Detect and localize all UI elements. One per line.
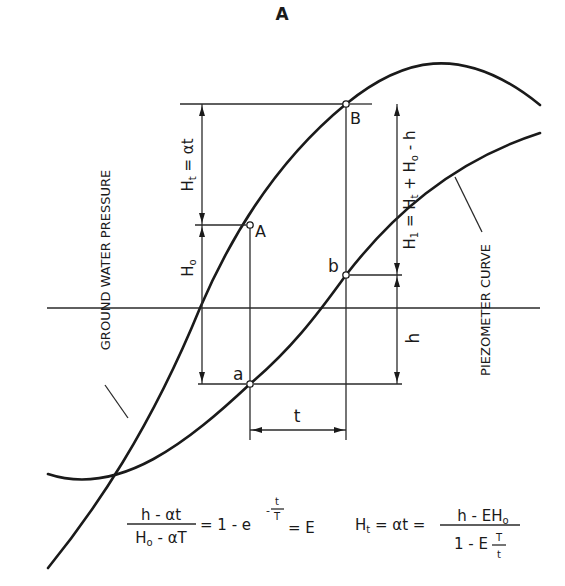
arrow-t-right xyxy=(334,427,344,433)
point-b xyxy=(343,272,349,278)
svg-text:= 1 - e: = 1 - e xyxy=(200,516,251,534)
svg-text:T: T xyxy=(495,532,503,543)
diagram-canvas: A t B A b a Ht = αt xyxy=(0,0,565,586)
svg-text:PIEZOMETER CURVE: PIEZOMETER CURVE xyxy=(478,244,493,376)
equation-2: Ht = αt = h - EHo 1 - E T t xyxy=(355,507,520,560)
arrow-h-bottom xyxy=(394,372,400,382)
svg-text:h - αt: h - αt xyxy=(141,506,181,524)
ground-water-pressure-curve xyxy=(48,63,540,568)
ho-label: Ho xyxy=(179,259,198,276)
svg-text:h: h xyxy=(403,333,423,344)
point-A xyxy=(247,222,253,228)
piezometer-curve xyxy=(48,133,540,480)
label-a: a xyxy=(233,364,243,384)
ht-label: Ht = αt xyxy=(179,138,198,191)
label-B: B xyxy=(350,109,361,128)
svg-text:1 - E: 1 - E xyxy=(454,535,488,553)
svg-text:H1 = Ht + Ho - h: H1 = Ht + Ho - h xyxy=(401,131,420,250)
h1-label: H1 = Ht + Ho - h xyxy=(401,131,420,250)
svg-text:Ho: Ho xyxy=(179,259,198,276)
arrow-h1-top xyxy=(394,106,400,116)
svg-text:-: - xyxy=(266,504,270,517)
svg-text:Ho - αT: Ho - αT xyxy=(135,529,187,548)
point-a xyxy=(247,381,253,387)
arrow-ht-top xyxy=(199,106,205,116)
svg-text:T: T xyxy=(273,511,281,522)
t-label: t xyxy=(294,406,301,426)
h-label: h xyxy=(403,333,423,344)
arrow-ho-top xyxy=(199,227,205,237)
arrow-h1-bottom xyxy=(394,263,400,273)
svg-text:t: t xyxy=(497,549,501,560)
arrow-h-top xyxy=(394,277,400,287)
piezometer-leader xyxy=(455,177,482,232)
ground-water-leader xyxy=(105,385,128,418)
ground-water-pressure-label: GROUND WATER PRESSURE xyxy=(98,170,113,350)
svg-text:h - EHo: h - EHo xyxy=(457,507,508,526)
arrow-t-left xyxy=(252,427,262,433)
label-A: A xyxy=(255,222,266,241)
svg-text:= E: = E xyxy=(288,519,315,537)
figure-title: A xyxy=(275,4,289,24)
piezometer-curve-label: PIEZOMETER CURVE xyxy=(478,244,493,376)
arrow-ho-bottom xyxy=(199,372,205,382)
svg-text:t: t xyxy=(275,496,279,507)
svg-text:Ht = αt =: Ht = αt = xyxy=(355,516,425,535)
label-b: b xyxy=(328,256,339,276)
svg-text:Ht = αt: Ht = αt xyxy=(179,138,198,191)
equation-1: h - αt Ho - αT = 1 - e - t T = E xyxy=(127,496,315,548)
svg-text:GROUND WATER PRESSURE: GROUND WATER PRESSURE xyxy=(98,170,113,350)
point-B xyxy=(343,101,349,107)
arrow-ht-bottom xyxy=(199,213,205,223)
